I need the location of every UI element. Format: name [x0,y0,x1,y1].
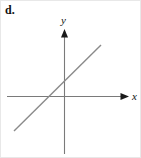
figure-canvas: d. y x [0,0,141,158]
x-axis-label: x [131,90,137,102]
coordinate-plane-graph: y x [1,1,141,158]
y-axis-arrow-icon [61,29,68,38]
plotted-line [14,45,101,131]
x-axis-arrow-icon [121,93,130,100]
y-axis-label: y [60,14,66,26]
